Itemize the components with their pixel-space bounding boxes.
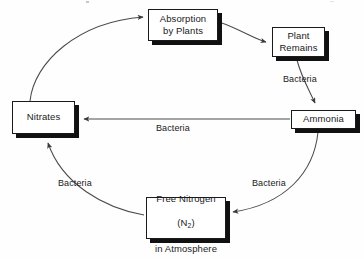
node-ammonia-label: Ammonia (300, 113, 347, 125)
node-plant-remains: Plant Remains (272, 27, 325, 57)
arrow-ammonia-to-free-nitrogen (233, 132, 318, 212)
node-free-nitrogen-label: Free Nitrogen (N2) in Atmosphere (152, 181, 220, 255)
edge-label-ammonia-to-free-nitrogen: Bacteria (252, 178, 286, 188)
arrow-absorption-to-plant-remains (219, 22, 266, 42)
node-plant-remains-label: Plant Remains (276, 30, 320, 54)
scan-artifact-speck (86, 1, 89, 3)
node-absorption-by-plants: Absorption by Plants (148, 9, 218, 41)
node-nitrates: Nitrates (12, 101, 75, 134)
free-nitrogen-line-1: Free Nitrogen (156, 193, 215, 204)
node-absorption-label: Absorption by Plants (157, 13, 209, 37)
free-nitrogen-formula-close: ) (191, 217, 194, 228)
nitrogen-cycle-diagram: Absorption by Plants Plant Remains Ammon… (0, 0, 364, 259)
node-ammonia: Ammonia (291, 110, 356, 129)
free-nitrogen-line-3: in Atmosphere (155, 243, 217, 254)
free-nitrogen-formula-open: (N (177, 217, 187, 228)
node-free-nitrogen: Free Nitrogen (N2) in Atmosphere (146, 197, 226, 239)
scan-artifact-speck (330, 1, 334, 2)
node-nitrates-label: Nitrates (24, 111, 64, 123)
edge-label-plant-remains-to-ammonia: Bacteria (283, 74, 317, 84)
edge-label-ammonia-to-nitrates: Bacteria (156, 123, 190, 133)
arrow-nitrates-to-absorption (30, 17, 143, 101)
edge-label-free-nitrogen-to-nitrates: Bacteria (58, 178, 92, 188)
